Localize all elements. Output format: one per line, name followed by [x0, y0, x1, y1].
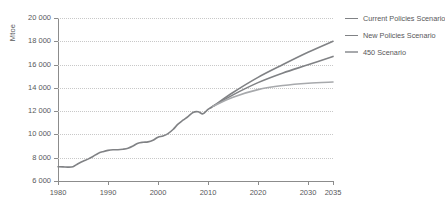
chart-legend: Current Policies ScenarioNew Policies Sc… [345, 15, 445, 65]
y-tick-label: 18 000 [28, 38, 51, 46]
legend-item[interactable]: Current Policies Scenario [345, 15, 445, 22]
x-tick-label: 2020 [250, 189, 267, 197]
legend-swatch-icon [345, 51, 358, 53]
energy-demand-chart: Mtoe 6 0008 00010 00012 00014 00016 0001… [0, 0, 445, 213]
y-axis-title: Mtoe [8, 7, 17, 59]
legend-swatch-icon [345, 35, 358, 37]
x-tick-label: 1990 [100, 189, 117, 197]
y-tick-label: 16 000 [28, 61, 51, 69]
x-tick-mark [158, 181, 159, 185]
x-tick-mark [308, 181, 309, 185]
legend-item[interactable]: New Policies Scenario [345, 32, 445, 39]
x-tick-label: 2000 [150, 189, 167, 197]
x-tick-label: 2010 [200, 189, 217, 197]
x-tick-mark [108, 181, 109, 185]
x-tick-label: 2030 [300, 189, 317, 197]
legend-swatch-icon [345, 18, 358, 20]
legend-item-label: Current Policies Scenario [363, 15, 445, 22]
y-tick-label: 10 000 [28, 131, 51, 139]
legend-item-label: New Policies Scenario [363, 32, 436, 39]
x-tick-label: 1980 [50, 189, 67, 197]
legend-item[interactable]: 450 Scenario [345, 49, 445, 56]
plot-area: 6 0008 00010 00012 00014 00016 00018 000… [58, 18, 333, 181]
y-tick-label: 8 000 [32, 154, 51, 162]
x-axis-line [58, 181, 334, 182]
x-tick-mark [58, 181, 59, 185]
x-tick-mark [258, 181, 259, 185]
legend-item-label: 450 Scenario [363, 49, 406, 56]
x-tick-label: 2035 [325, 189, 342, 197]
series-lines [58, 18, 333, 181]
y-tick-label: 20 000 [28, 14, 51, 22]
series-line [58, 41, 333, 167]
y-tick-label: 12 000 [28, 107, 51, 115]
y-tick-label: 14 000 [28, 84, 51, 92]
y-tick-label: 6 000 [32, 177, 51, 185]
x-tick-mark [208, 181, 209, 185]
x-tick-mark [333, 181, 334, 185]
